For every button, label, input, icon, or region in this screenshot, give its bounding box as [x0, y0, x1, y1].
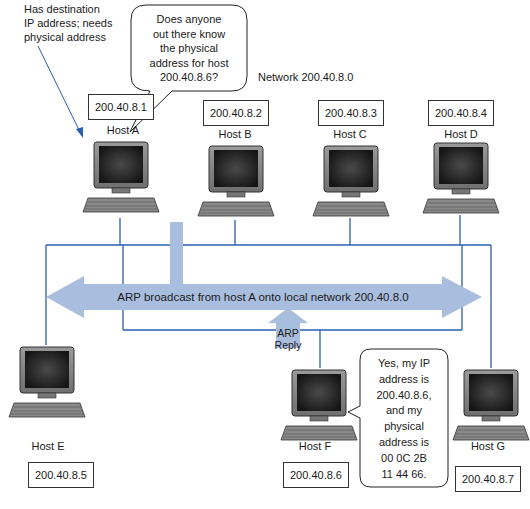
host-label-b: Host B — [195, 128, 275, 140]
network-label: Network 200.40.8.0 — [258, 70, 353, 84]
ip-box-host-b: 200.40.8.2 — [203, 100, 269, 126]
broadcast-label: ARP broadcast from host A onto local net… — [84, 290, 442, 304]
ip-box-host-d: 200.40.8.4 — [428, 100, 494, 126]
reply-line: 200.40.8.6, — [360, 388, 448, 404]
reply-line: address is — [360, 372, 448, 388]
reply-line: Yes, my IP — [360, 356, 448, 372]
ip-box-host-g: 200.40.8.7 — [455, 466, 521, 492]
computer-host-d-icon[interactable] — [422, 141, 500, 219]
host-label-f: Host F — [275, 440, 355, 452]
question-bubble-text: Does anyone out there know the physical … — [131, 12, 247, 85]
note-line: IP address; needs — [24, 16, 112, 30]
host-label-d: Host D — [421, 128, 501, 140]
ip-box-host-a: 200.40.8.1 — [88, 94, 154, 120]
note-line: Has destination — [24, 2, 112, 16]
computer-host-f-icon[interactable] — [280, 368, 358, 446]
reply-line: and my — [360, 403, 448, 419]
reply-line: address is — [360, 435, 448, 451]
note-line: physical address — [24, 30, 112, 44]
bubble-line: 200.40.8.6? — [131, 70, 247, 85]
broadcast-stem — [170, 222, 183, 284]
bubble-line: out there know — [131, 27, 247, 42]
computer-host-g-icon[interactable] — [452, 368, 530, 446]
host-label-g: Host G — [448, 440, 528, 452]
ip-box-host-f: 200.40.8.6 — [283, 462, 349, 488]
computer-host-a-icon[interactable] — [82, 140, 160, 218]
arp-reply-line: Reply — [270, 339, 306, 351]
ip-box-host-c: 200.40.8.3 — [318, 100, 384, 126]
computer-host-c-icon[interactable] — [312, 144, 390, 222]
note-pointer-arrowhead — [76, 127, 83, 138]
note-pointer-line — [38, 46, 80, 132]
reply-line: physical — [360, 419, 448, 435]
arp-reply-line: ARP — [270, 327, 306, 339]
ip-box-host-e: 200.40.8.5 — [28, 462, 94, 488]
bubble-line: Does anyone — [131, 12, 247, 27]
arp-reply-label: ARP Reply — [270, 327, 306, 351]
reply-line: 00 0C 2B — [360, 451, 448, 467]
host-label-c: Host C — [310, 128, 390, 140]
bubble-line: the physical — [131, 41, 247, 56]
bubble-line: address for host — [131, 56, 247, 71]
reply-line: 11 44 66. — [360, 467, 448, 483]
host-label-e: Host E — [8, 440, 88, 452]
computer-host-b-icon[interactable] — [197, 144, 275, 222]
host-a-note: Has destination IP address; needs physic… — [24, 2, 112, 44]
computer-host-e-icon[interactable] — [8, 345, 86, 423]
reply-bubble-text: Yes, my IP address is 200.40.8.6, and my… — [360, 356, 448, 482]
host-label-a: Host A — [83, 124, 163, 136]
